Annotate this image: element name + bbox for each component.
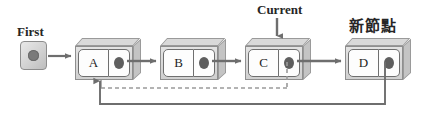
node-d-data-cell: D: [348, 49, 379, 77]
node-top-face: [160, 38, 225, 46]
pointer-dot-icon: [28, 50, 39, 61]
node-top-face: [75, 38, 140, 46]
node-a: A: [75, 38, 141, 80]
node-cells: A: [78, 49, 130, 77]
node-c: C: [245, 38, 311, 80]
new-node-label: 新節點: [349, 14, 397, 35]
pointer-dot-icon: [284, 57, 294, 69]
first-label: First: [17, 24, 44, 40]
node-right-face: [133, 39, 141, 80]
node-top-face: [245, 38, 310, 46]
node-d-pointer-cell: [379, 49, 400, 77]
link-d-to-a-solid: [100, 62, 385, 104]
node-b: B: [160, 38, 226, 80]
linked-list-diagram: First Current 新節點 A B: [0, 0, 431, 122]
node-c-data-cell: C: [248, 49, 279, 77]
node-b-pointer-cell: [194, 49, 215, 77]
node-c-pointer-cell: [279, 49, 300, 77]
node-a-pointer-cell: [109, 49, 130, 77]
node-top-face: [345, 38, 410, 46]
node-cells: C: [248, 49, 300, 77]
current-label: Current: [257, 2, 302, 18]
node-a-data-cell: A: [78, 49, 109, 77]
node-right-face: [403, 39, 411, 80]
node-b-data-cell: B: [163, 49, 194, 77]
pointer-dot-icon: [384, 57, 394, 69]
pointer-dot-icon: [114, 57, 124, 69]
node-right-face: [218, 39, 226, 80]
node-cells: B: [163, 49, 215, 77]
node-d: D: [345, 38, 411, 80]
node-cells: D: [348, 49, 400, 77]
node-right-face: [303, 39, 311, 80]
first-pointer-box: [20, 41, 47, 70]
pointer-dot-icon: [199, 57, 209, 69]
